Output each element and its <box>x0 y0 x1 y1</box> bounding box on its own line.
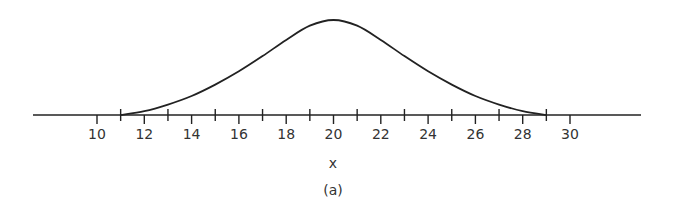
tick-label: 12 <box>135 126 153 142</box>
chart-canvas: 1012141618202224262830 x (a) <box>0 0 675 217</box>
tick-label: 14 <box>183 126 201 142</box>
tick-label: 10 <box>88 126 106 142</box>
bell-curve <box>121 20 547 115</box>
tick-label: 24 <box>419 126 437 142</box>
tick-label: 20 <box>325 126 343 142</box>
tick-label: 28 <box>514 126 532 142</box>
figure-caption: (a) <box>323 182 343 198</box>
tick-label: 30 <box>561 126 579 142</box>
x-axis-ticks <box>97 109 570 124</box>
tick-label: 18 <box>277 126 295 142</box>
tick-label: 16 <box>230 126 248 142</box>
x-axis-label: x <box>329 155 337 171</box>
tick-label: 22 <box>372 126 390 142</box>
x-axis-tick-labels: 1012141618202224262830 <box>88 126 579 142</box>
tick-label: 26 <box>466 126 484 142</box>
